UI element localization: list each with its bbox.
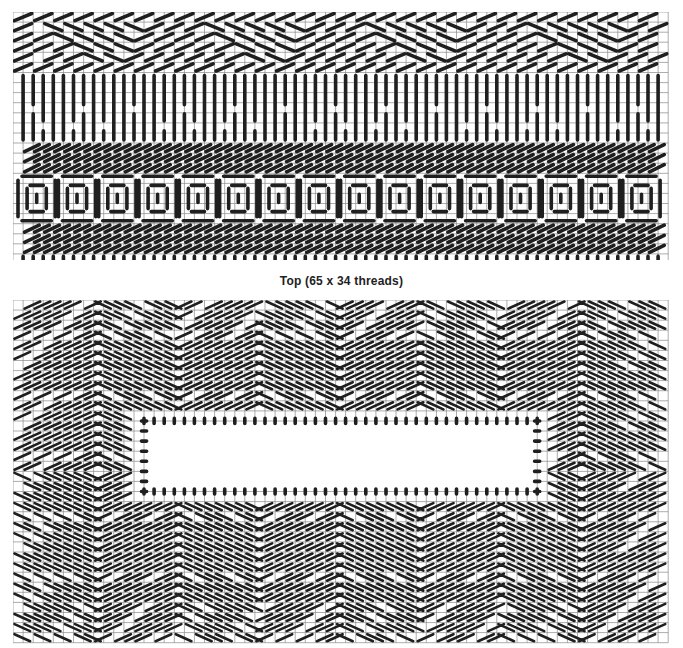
- side-chart: [13, 300, 671, 644]
- top-stitch-grid: [13, 12, 671, 260]
- top-caption: Top (65 x 34 threads): [0, 274, 683, 288]
- side-stitch-grid: [13, 300, 671, 644]
- top-chart: [13, 12, 671, 260]
